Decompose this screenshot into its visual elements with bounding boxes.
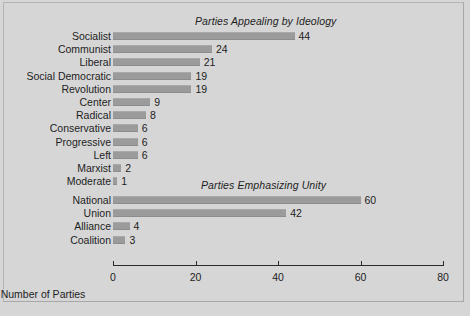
- bar-row: Social Democratic19: [0, 70, 470, 83]
- bar-category-label: Progressive: [56, 136, 111, 149]
- bar-value-label: 6: [142, 136, 148, 149]
- bar-category-label: Union: [84, 207, 111, 220]
- bar-unity: [113, 196, 361, 204]
- bar-category-label: Left: [93, 149, 111, 162]
- bar-unity: [113, 236, 125, 244]
- bar-row: Center9: [0, 96, 470, 109]
- bar-category-label: Center: [79, 96, 111, 109]
- bar-row: Alliance4: [0, 220, 470, 233]
- bar-ideology: [113, 72, 191, 80]
- x-tick-label: 80: [437, 271, 449, 283]
- bar-row: Union42: [0, 207, 470, 220]
- bar-category-label: Moderate: [67, 175, 111, 188]
- bar-category-label: Alliance: [74, 220, 111, 233]
- chart-title-unity: Parties Emphasizing Unity: [201, 179, 326, 191]
- figure-canvas: Parties Appealing by Ideology Socialist4…: [0, 0, 470, 316]
- chart-title-ideology: Parties Appealing by Ideology: [195, 15, 336, 27]
- bar-ideology: [113, 58, 200, 66]
- bar-ideology: [113, 151, 138, 159]
- bar-category-label: Marxist: [77, 162, 111, 175]
- bar-category-label: Socialist: [72, 30, 111, 43]
- bar-category-label: Liberal: [79, 56, 111, 69]
- bar-value-label: 21: [204, 56, 216, 69]
- bar-row: Conservative6: [0, 122, 470, 135]
- bar-row: Left6: [0, 149, 470, 162]
- bar-ideology: [113, 124, 138, 132]
- bar-value-label: 19: [195, 83, 207, 96]
- x-axis-label: Number of Parties: [0, 288, 470, 300]
- bar-unity: [113, 209, 286, 217]
- x-tick-mark: [361, 261, 362, 266]
- bar-ideology: [113, 45, 212, 53]
- bar-unity: [113, 222, 130, 230]
- bar-row: Socialist44: [0, 30, 470, 43]
- x-tick-label: 0: [110, 271, 116, 283]
- x-tick-mark: [443, 261, 444, 266]
- x-tick-label: 20: [190, 271, 202, 283]
- bar-category-label: Social Democratic: [26, 70, 111, 83]
- bar-value-label: 4: [134, 220, 140, 233]
- bar-row: Liberal21: [0, 56, 470, 69]
- bar-category-label: Communist: [58, 43, 111, 56]
- bar-value-label: 8: [150, 109, 156, 122]
- bar-ideology: [113, 32, 295, 40]
- bar-row: National60: [0, 194, 470, 207]
- bar-ideology: [113, 85, 191, 93]
- bar-value-label: 3: [129, 234, 135, 247]
- bar-row: Communist24: [0, 43, 470, 56]
- bar-value-label: 6: [142, 149, 148, 162]
- bar-value-label: 19: [195, 70, 207, 83]
- bar-category-label: Radical: [76, 109, 111, 122]
- bar-ideology: [113, 111, 146, 119]
- bar-row: Coalition3: [0, 234, 470, 247]
- bar-ideology: [113, 138, 138, 146]
- bar-ideology: [113, 164, 121, 172]
- x-tick-label: 40: [272, 271, 284, 283]
- bar-ideology: [113, 98, 150, 106]
- bar-value-label: 42: [290, 207, 302, 220]
- x-tick-mark: [113, 261, 114, 266]
- bar-ideology: [113, 177, 117, 185]
- bar-value-label: 60: [365, 194, 377, 207]
- bar-value-label: 44: [299, 30, 311, 43]
- x-axis-label-text: Number of Parties: [1, 288, 86, 300]
- bar-category-label: Coalition: [70, 234, 111, 247]
- bar-value-label: 1: [121, 175, 127, 188]
- bar-row: Radical8: [0, 109, 470, 122]
- bar-row: Progressive6: [0, 136, 470, 149]
- bar-row: Marxist2: [0, 162, 470, 175]
- bar-category-label: National: [72, 194, 111, 207]
- x-tick-mark: [278, 261, 279, 266]
- bar-value-label: 2: [125, 162, 131, 175]
- bar-category-label: Conservative: [50, 122, 111, 135]
- bar-value-label: 24: [216, 43, 228, 56]
- x-tick-label: 60: [355, 271, 367, 283]
- bar-category-label: Revolution: [61, 83, 111, 96]
- bar-row: Revolution19: [0, 83, 470, 96]
- bar-value-label: 6: [142, 122, 148, 135]
- x-tick-mark: [196, 261, 197, 266]
- bar-value-label: 9: [154, 96, 160, 109]
